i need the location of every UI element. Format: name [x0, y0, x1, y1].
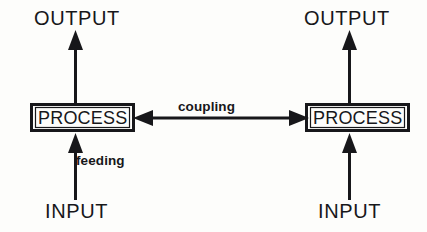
left-input-label: INPUT	[45, 201, 108, 221]
left-output-arrow	[68, 30, 83, 104]
right-output-label: OUTPUT	[304, 8, 390, 28]
coupling-label: coupling	[178, 100, 235, 114]
right-process-label: PROCESS	[313, 109, 402, 127]
left-output-label: OUTPUT	[34, 8, 120, 28]
right-output-arrow	[342, 30, 357, 104]
right-input-label: INPUT	[318, 201, 381, 221]
left-process-label: PROCESS	[38, 109, 127, 127]
right-input-arrow	[342, 133, 357, 200]
feeding-label: feeding	[76, 154, 125, 168]
process-coupling-diagram: OUTPUT PROCESS feeding INPUT coupling OU…	[0, 0, 427, 232]
